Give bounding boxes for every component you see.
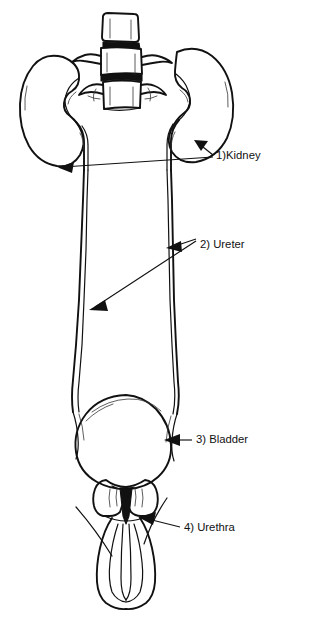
- leader-ureter: [89, 239, 196, 311]
- diagram-canvas: 1)Kidney 2) Ureter 3) Bladder 4) Urethra: [0, 0, 309, 627]
- ureter-right: [167, 170, 179, 414]
- label-kidney: 1)Kidney: [216, 149, 261, 161]
- label-ureter: 2) Ureter: [200, 238, 245, 250]
- kidney-left: [20, 56, 88, 170]
- leader-bladder: [164, 434, 192, 446]
- urethra-canal: [121, 524, 131, 600]
- arrowhead-kidney-left: [58, 162, 74, 173]
- urinary-system-diagram: 1)Kidney 2) Ureter 3) Bladder 4) Urethra: [0, 0, 309, 627]
- label-bladder: 3) Bladder: [196, 433, 248, 445]
- arrowhead-ureter-left: [89, 300, 108, 311]
- label-urethra: 4) Urethra: [184, 521, 236, 533]
- leader-kidney: [58, 140, 213, 173]
- vertebrae-group: [72, 13, 172, 110]
- ureter-left: [72, 170, 88, 412]
- urinary-bladder: [73, 395, 177, 489]
